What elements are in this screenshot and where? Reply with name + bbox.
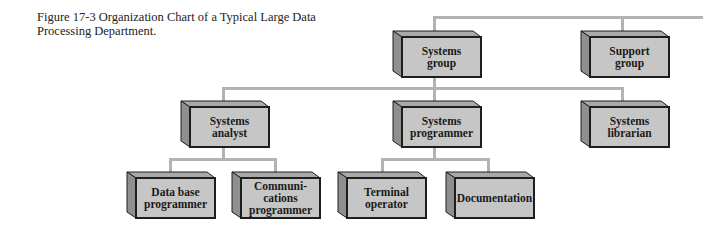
connector-librarian-up bbox=[621, 87, 624, 102]
figure-caption: Figure 17-3 Organization Chart of a Typi… bbox=[37, 10, 317, 38]
org-box-systems-analyst: Systems analyst bbox=[181, 101, 269, 147]
connector-analyst-horizontal bbox=[169, 158, 277, 161]
org-box-label: Terminal operator bbox=[347, 178, 426, 218]
org-box-label: Systems librarian bbox=[590, 107, 669, 147]
org-box-communications-programmer: Communi- cations programmer bbox=[232, 172, 320, 218]
org-box-label: Systems programmer bbox=[402, 107, 481, 147]
connector-top-horizontal bbox=[433, 16, 703, 19]
org-box-documentation: Documentation bbox=[446, 172, 534, 218]
org-box-terminal-operator: Terminal operator bbox=[338, 172, 426, 218]
org-box-systems-librarian: Systems librarian bbox=[581, 101, 669, 147]
org-box-label: Communi- cations programmer bbox=[241, 178, 320, 218]
connector-support-group-up bbox=[621, 16, 624, 32]
connector-programmer-up bbox=[433, 87, 436, 102]
org-box-systems-group: Systems group bbox=[393, 31, 481, 77]
connector-database-up bbox=[169, 158, 172, 173]
connector-documentation-up bbox=[487, 158, 490, 173]
org-box-support-group: Support group bbox=[581, 31, 669, 77]
org-box-label: Data base programmer bbox=[136, 178, 215, 218]
connector-communications-up bbox=[274, 158, 277, 173]
org-box-label: Documentation bbox=[455, 178, 534, 218]
org-box-label: Systems analyst bbox=[190, 107, 269, 147]
org-box-label: Systems group bbox=[402, 37, 481, 77]
connector-terminal-up bbox=[381, 158, 384, 173]
org-box-data-base-programmer: Data base programmer bbox=[127, 172, 215, 218]
connector-systems-group-up bbox=[433, 16, 436, 32]
connector-analyst-up bbox=[222, 87, 225, 102]
connector-programmer-horizontal bbox=[381, 158, 490, 161]
connector-level2-horizontal bbox=[222, 87, 624, 90]
org-box-label: Support group bbox=[590, 37, 669, 77]
org-box-systems-programmer: Systems programmer bbox=[393, 101, 481, 147]
